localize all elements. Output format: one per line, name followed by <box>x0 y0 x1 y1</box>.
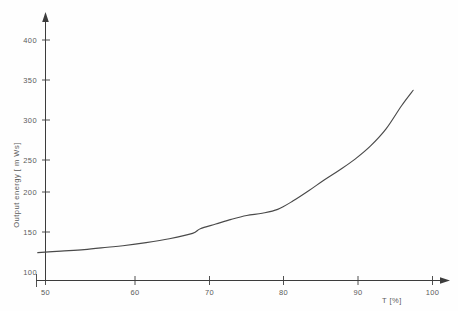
chart-plot: 400 350 300 250 200 150 100 50 60 70 80 <box>0 0 458 311</box>
x-axis-arrow-icon <box>440 277 450 284</box>
y-tick-label: 350 <box>23 76 37 85</box>
y-tick-label: 400 <box>23 36 37 45</box>
x-tick-label: 80 <box>279 288 288 297</box>
x-tick-label: 100 <box>426 288 440 297</box>
y-tick-label: 150 <box>23 228 37 237</box>
x-tick-label: 50 <box>41 288 50 297</box>
y-tick-label: 200 <box>23 188 37 197</box>
data-curve-line <box>38 90 413 252</box>
x-axis-title: T [%] <box>382 296 402 305</box>
x-tick-label: 60 <box>130 288 139 297</box>
x-tick-label: 70 <box>205 288 214 297</box>
y-tick-label: 250 <box>23 156 37 165</box>
y-axis-arrow-icon <box>42 12 49 22</box>
y-tick-label: 100 <box>23 268 37 277</box>
x-tick-label: 90 <box>353 288 362 297</box>
x-axis-ticks: 50 60 70 80 90 100 <box>41 276 439 297</box>
x-axis <box>36 274 450 287</box>
y-tick-label: 300 <box>23 116 37 125</box>
y-axis <box>42 12 49 281</box>
y-axis-title: Output energy [ m Ws] <box>12 142 21 228</box>
chart-container: 400 350 300 250 200 150 100 50 60 70 80 <box>0 0 458 311</box>
